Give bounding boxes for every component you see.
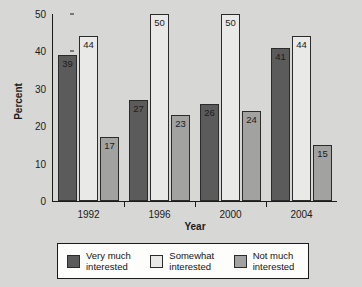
bar-value-label: 24 (243, 114, 261, 125)
x-tick-mark (266, 202, 267, 207)
bar: 44 (79, 36, 99, 201)
legend-item: Very much interested (58, 250, 141, 272)
bar: 41 (271, 48, 291, 201)
bar-group: 275023 (124, 14, 195, 201)
bar-value-label: 50 (222, 17, 240, 28)
x-tick-label: 2000 (201, 209, 261, 220)
bar: 39 (58, 55, 78, 201)
bar-value-label: 17 (101, 140, 119, 151)
legend-swatch-icon (67, 255, 80, 268)
x-tick-label: 1996 (130, 209, 190, 220)
bar-chart-figure: Percent 01020304050 39441727502326502441… (0, 0, 362, 287)
x-tick-label: 2004 (272, 209, 332, 220)
legend-label: Not much interested (253, 250, 295, 272)
x-tick-mark (195, 202, 196, 207)
bar-group: 394417 (53, 14, 124, 201)
legend-label: Very much interested (86, 250, 131, 272)
bar: 50 (150, 14, 170, 201)
bar-value-label: 50 (151, 17, 169, 28)
x-tick-mark (124, 202, 125, 207)
bar-value-label: 26 (201, 107, 219, 118)
bar-value-label: 39 (59, 58, 77, 69)
bar: 17 (100, 137, 120, 201)
y-tick-label: 20 (22, 121, 46, 132)
y-axis-tick-labels: 01020304050 (22, 14, 46, 201)
bar: 26 (200, 104, 220, 201)
bar: 23 (171, 115, 191, 201)
bar-value-label: 44 (293, 39, 311, 50)
bar: 15 (313, 145, 333, 201)
x-tick-label: 1992 (59, 209, 119, 220)
bar-value-label: 23 (172, 118, 190, 129)
y-tick-label: 0 (22, 196, 46, 207)
chart-legend: Very much interestedSomewhat interestedN… (57, 243, 309, 279)
bar-value-label: 44 (80, 39, 98, 50)
y-tick-label: 30 (22, 83, 46, 94)
legend-item: Somewhat interested (141, 250, 224, 272)
bar: 24 (242, 111, 262, 201)
y-tick-label: 50 (22, 9, 46, 20)
bar-group: 265024 (195, 14, 266, 201)
bar-value-label: 27 (130, 103, 148, 114)
bar-value-label: 41 (272, 51, 290, 62)
legend-item: Not much interested (225, 250, 308, 272)
bar: 27 (129, 100, 149, 201)
y-tick-label: 10 (22, 158, 46, 169)
y-tick-label: 40 (22, 46, 46, 57)
plot-area: 394417275023265024414415 (53, 14, 337, 201)
legend-label: Somewhat interested (169, 250, 214, 272)
bar-group: 414415 (266, 14, 337, 201)
bar: 44 (292, 36, 312, 201)
bar-value-label: 15 (314, 148, 332, 159)
x-axis-title: Year (53, 221, 337, 232)
bar: 50 (221, 14, 241, 201)
legend-swatch-icon (234, 255, 247, 268)
legend-swatch-icon (150, 255, 163, 268)
